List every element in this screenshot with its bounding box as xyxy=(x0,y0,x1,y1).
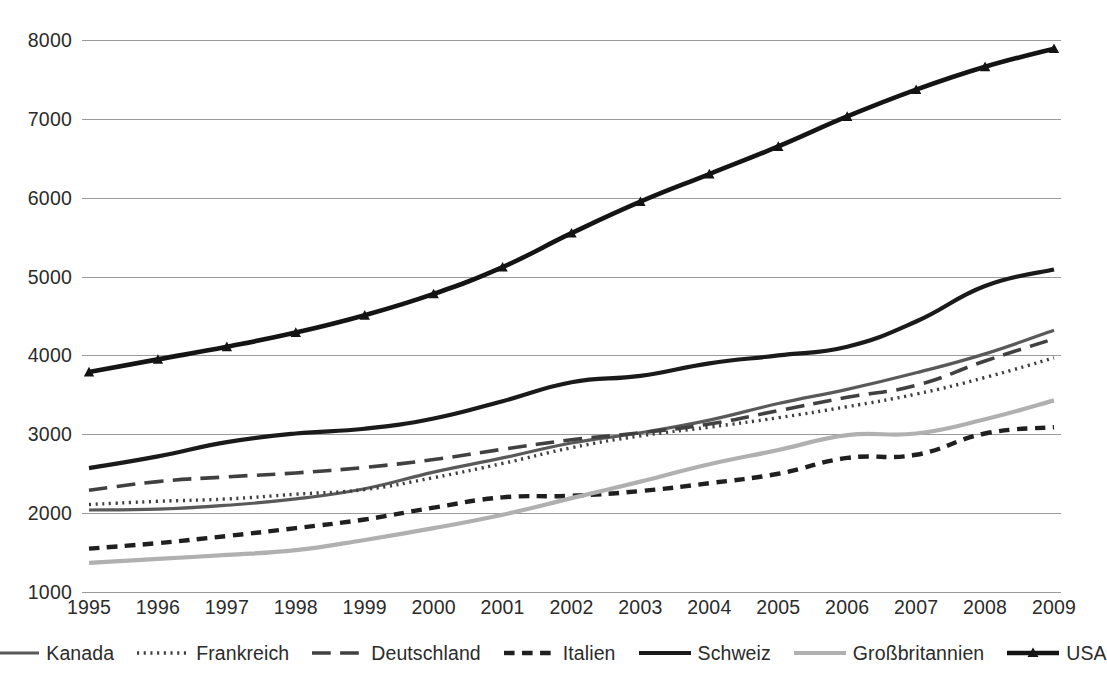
line-dotted-icon xyxy=(136,646,190,660)
line-dashed-short-icon xyxy=(503,646,557,660)
x-tick-label-2000: 2000 xyxy=(412,596,456,619)
x-tick-label-2002: 2002 xyxy=(549,596,593,619)
y-tick-label-6000: 6000 xyxy=(0,186,72,209)
line-solid-gray-icon xyxy=(0,646,40,660)
y-tick-label-7000: 7000 xyxy=(0,107,72,130)
legend-item-schweiz[interactable]: Schweiz xyxy=(638,642,771,665)
legend-label: Großbritannien xyxy=(853,642,984,665)
line-solid-black-thick-icon xyxy=(638,646,692,660)
series-kanada xyxy=(89,330,1054,510)
x-axis: 1995199619971998199920002001200220032004… xyxy=(82,596,1061,624)
legend-item-kanada[interactable]: Kanada xyxy=(0,642,114,665)
x-tick-label-2008: 2008 xyxy=(963,596,1007,619)
series-usa xyxy=(84,43,1059,376)
legend-label: Italien xyxy=(563,642,616,665)
y-tick-label-2000: 2000 xyxy=(0,502,72,525)
series-italien xyxy=(89,427,1054,548)
x-tick-label-1996: 1996 xyxy=(136,596,180,619)
x-tick-label-1995: 1995 xyxy=(67,596,111,619)
y-tick-label-3000: 3000 xyxy=(0,423,72,446)
series-frankreich xyxy=(89,358,1054,505)
series-line xyxy=(89,358,1054,505)
x-tick-label-1999: 1999 xyxy=(343,596,387,619)
legend-item-gro-britannien[interactable]: Großbritannien xyxy=(793,642,984,665)
x-tick-label-2005: 2005 xyxy=(756,596,800,619)
x-tick-label-2006: 2006 xyxy=(825,596,869,619)
legend-label: Kanada xyxy=(46,642,114,665)
x-tick-label-2004: 2004 xyxy=(687,596,731,619)
series-line xyxy=(89,339,1054,490)
x-tick-label-2003: 2003 xyxy=(618,596,662,619)
y-axis: 10002000300040005000600070008000 xyxy=(0,0,72,689)
line-solid-black-triangle-icon xyxy=(1006,646,1060,660)
y-tick-label-1000: 1000 xyxy=(0,581,72,604)
series-line xyxy=(89,427,1054,548)
legend-item-italien[interactable]: Italien xyxy=(503,642,616,665)
y-tick-label-4000: 4000 xyxy=(0,344,72,367)
series-line xyxy=(89,330,1054,510)
legend-item-usa[interactable]: USA xyxy=(1006,642,1106,665)
x-tick-label-2007: 2007 xyxy=(894,596,938,619)
legend-item-frankreich[interactable]: Frankreich xyxy=(136,642,289,665)
line-dashed-long-icon xyxy=(311,646,365,660)
x-tick-label-2001: 2001 xyxy=(480,596,524,619)
series-layer xyxy=(82,40,1061,592)
legend-label: Schweiz xyxy=(698,642,771,665)
x-tick-label-1997: 1997 xyxy=(205,596,249,619)
line-solid-lightgray-icon xyxy=(793,646,847,660)
gridline-1000 xyxy=(82,592,1061,593)
series-gro-britannien xyxy=(89,400,1054,562)
chart-legend: KanadaFrankreichDeutschlandItalienSchwei… xyxy=(0,636,1093,670)
y-tick-label-8000: 8000 xyxy=(0,29,72,52)
series-line xyxy=(89,400,1054,562)
x-tick-label-2009: 2009 xyxy=(1032,596,1076,619)
plot-area xyxy=(82,40,1061,592)
legend-item-deutschland[interactable]: Deutschland xyxy=(311,642,481,665)
legend-label: Deutschland xyxy=(371,642,481,665)
legend-label: Frankreich xyxy=(196,642,289,665)
y-tick-label-5000: 5000 xyxy=(0,265,72,288)
x-tick-label-1998: 1998 xyxy=(274,596,318,619)
legend-label: USA xyxy=(1066,642,1106,665)
series-deutschland xyxy=(89,339,1054,490)
